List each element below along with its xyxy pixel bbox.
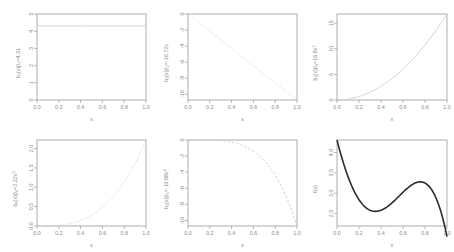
y-axis-label-3: b3(x)β3=16.8x2 <box>312 46 319 81</box>
x-ticks-6: 0.00.20.40.60.81.0 <box>333 226 450 237</box>
x-tick-label-1-0: 0.0 <box>33 104 40 110</box>
plot-panel-1: b1(x)β1=4.31 012345 0.00.20.40.60.81.0 x <box>0 0 151 126</box>
x-axis-label-4: x <box>90 242 93 248</box>
x-axis-label-5: x <box>241 242 244 248</box>
y-axis-label-5: b5(x)β5=-10.68x4 <box>163 169 170 209</box>
y-axis-label-6: f(x) <box>312 185 318 193</box>
curve-5 <box>188 140 297 226</box>
x-ticks-4: 0.00.20.40.60.81.0 <box>33 226 149 237</box>
y-tick-label-4-2: 1.0 <box>28 184 34 191</box>
x-tick-label-6-4: 0.8 <box>421 230 428 236</box>
y-ticks-1: 012345 <box>28 12 37 101</box>
x-tick-label-3-3: 0.6 <box>399 104 406 110</box>
y-axis-label-4: b4(x)β4=2.22x3 <box>12 172 19 207</box>
plot-3-group: b3(x)β3=16.8x2 051015 0.00.20.40.60.81.0… <box>312 14 451 122</box>
x-tick-label-1-5: 1.0 <box>142 104 149 110</box>
y-tick-label-3-0: 0 <box>328 98 334 101</box>
x-tick-label-2-1: 0.2 <box>206 104 213 110</box>
x-tick-label-4-2: 0.4 <box>77 230 84 236</box>
y-ticks-2: 0-2-4-6-8-10 <box>179 12 188 98</box>
plot-svg-4: b4(x)β4=2.22x3 0.00.51.01.52.0 0.00.20.4… <box>0 126 151 252</box>
y-tick-label-4-4: 2.0 <box>28 145 34 152</box>
y-axis-label-2: b2(x)β2=-10.72x <box>163 44 170 82</box>
y-tick-label-5-2: -4 <box>179 170 185 175</box>
plot-svg-2: b2(x)β2=-10.72x 0-2-4-6-8-10 0.00.20.40.… <box>151 0 302 126</box>
y-tick-label-5-5: -10 <box>179 217 185 225</box>
y-tick-label-6-1: 3.0 <box>328 189 334 196</box>
y-tick-label-2-1: -2 <box>179 28 185 33</box>
curve-6 <box>337 140 447 237</box>
plot-6-group: f(x) 2.53.03.54.0 0.00.20.40.60.81.0 x <box>312 140 451 248</box>
y-tick-label-4-0: 0.0 <box>28 222 34 229</box>
x-tick-label-3-5: 1.0 <box>443 104 450 110</box>
x-tick-label-1-2: 0.4 <box>77 104 84 110</box>
x-tick-label-2-0: 0.0 <box>185 104 192 110</box>
y-tick-label-4-3: 1.5 <box>28 164 34 171</box>
x-tick-label-2-4: 0.8 <box>272 104 279 110</box>
x-axis-label-2: x <box>241 116 244 122</box>
plot-panel-5: b5(x)β5=-10.68x4 0-2-4-6-8-10 0.00.20.40… <box>151 126 302 252</box>
x-tick-label-1-1: 0.2 <box>55 104 62 110</box>
x-tick-label-5-2: 0.4 <box>228 230 235 236</box>
x-tick-label-4-3: 0.6 <box>99 230 106 236</box>
y-ticks-5: 0-2-4-6-8-10 <box>179 138 188 224</box>
y-axis-label-1: b1(x)β1=4.31 <box>15 48 22 78</box>
plot-svg-6: f(x) 2.53.03.54.0 0.00.20.40.60.81.0 x <box>303 126 454 252</box>
x-ticks-3: 0.00.20.40.60.81.0 <box>333 100 450 111</box>
y-tick-label-5-0: 0 <box>179 138 185 141</box>
curve-2 <box>188 14 297 100</box>
plot-panel-6: f(x) 2.53.03.54.0 0.00.20.40.60.81.0 x <box>303 126 454 252</box>
y-tick-label-3-1: 5 <box>328 73 334 76</box>
x-tick-label-2-2: 0.4 <box>228 104 235 110</box>
x-tick-label-6-0: 0.0 <box>333 230 340 236</box>
x-axis-label-1: x <box>90 116 93 122</box>
x-axis-label-3: x <box>390 116 393 122</box>
x-tick-label-5-3: 0.6 <box>250 230 257 236</box>
y-tick-label-6-0: 2.5 <box>328 210 334 217</box>
x-ticks-2: 0.00.20.40.60.81.0 <box>185 100 301 111</box>
y-tick-label-5-1: -2 <box>179 154 185 159</box>
plot-panel-2: b2(x)β2=-10.72x 0-2-4-6-8-10 0.00.20.40.… <box>151 0 302 126</box>
x-tick-label-3-1: 0.2 <box>355 104 362 110</box>
y-tick-label-2-5: -10 <box>179 90 185 98</box>
y-tick-label-3-2: 10 <box>328 46 334 52</box>
y-tick-label-2-2: -4 <box>179 44 185 49</box>
x-tick-label-2-3: 0.6 <box>250 104 257 110</box>
y-tick-label-1-0: 0 <box>28 98 34 101</box>
y-ticks-3: 051015 <box>328 20 337 101</box>
y-tick-label-3-3: 15 <box>328 20 334 26</box>
x-tick-label-2-5: 1.0 <box>294 104 301 110</box>
plot-frame-1 <box>37 14 146 100</box>
figure-panel-grid: b1(x)β1=4.31 012345 0.00.20.40.60.81.0 x… <box>0 0 454 252</box>
x-tick-label-3-0: 0.0 <box>333 104 340 110</box>
plot-5-group: b5(x)β5=-10.68x4 0-2-4-6-8-10 0.00.20.40… <box>163 138 301 248</box>
y-tick-label-6-2: 3.5 <box>328 169 334 176</box>
plot-svg-1: b1(x)β1=4.31 012345 0.00.20.40.60.81.0 x <box>0 0 151 126</box>
plot-frame-5 <box>188 140 297 226</box>
y-tick-label-1-5: 5 <box>28 12 34 15</box>
x-tick-label-3-4: 0.8 <box>421 104 428 110</box>
x-tick-label-6-1: 0.2 <box>355 230 362 236</box>
plot-2-group: b2(x)β2=-10.72x 0-2-4-6-8-10 0.00.20.40.… <box>163 12 301 122</box>
x-tick-label-4-4: 0.8 <box>120 230 127 236</box>
x-axis-label-6: x <box>390 242 393 248</box>
y-tick-label-1-1: 1 <box>28 81 34 84</box>
plot-panel-3: b3(x)β3=16.8x2 051015 0.00.20.40.60.81.0… <box>303 0 454 126</box>
plot-1-group: b1(x)β1=4.31 012345 0.00.20.40.60.81.0 x <box>15 12 150 122</box>
x-tick-label-1-3: 0.6 <box>99 104 106 110</box>
plot-frame-3 <box>337 14 447 100</box>
x-tick-label-6-3: 0.6 <box>399 230 406 236</box>
curve-4 <box>37 140 146 226</box>
y-tick-label-5-3: -6 <box>179 186 185 191</box>
plot-panel-4: b4(x)β4=2.22x3 0.00.51.01.52.0 0.00.20.4… <box>0 126 151 252</box>
plot-frame-4 <box>37 140 146 226</box>
y-tick-label-1-3: 3 <box>28 47 34 50</box>
x-tick-label-6-2: 0.4 <box>377 230 384 236</box>
y-ticks-6: 2.53.03.54.0 <box>328 149 337 217</box>
plot-svg-5: b5(x)β5=-10.68x4 0-2-4-6-8-10 0.00.20.40… <box>151 126 302 252</box>
x-tick-label-5-4: 0.8 <box>272 230 279 236</box>
x-tick-label-5-1: 0.2 <box>206 230 213 236</box>
x-tick-label-4-1: 0.2 <box>55 230 62 236</box>
y-tick-label-4-1: 0.5 <box>28 203 34 210</box>
y-tick-label-2-3: -6 <box>179 60 185 65</box>
